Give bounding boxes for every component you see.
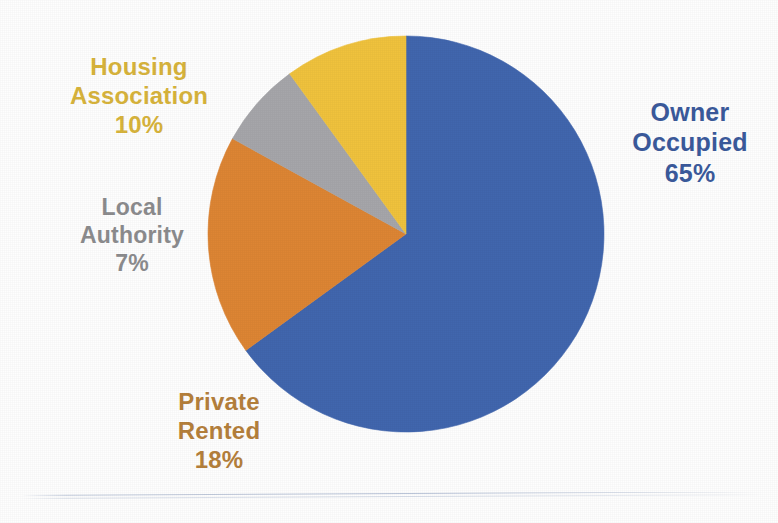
pie-label-private-rented-line1: Private	[143, 387, 295, 416]
pie-label-local-authority-value: 7%	[44, 250, 220, 278]
pie-label-housing-association: Housing Association 10%	[44, 52, 234, 139]
pie-chart-figure: Housing Association 10% Local Authority …	[0, 0, 778, 523]
pie-label-private-rented-value: 18%	[143, 445, 295, 474]
pie-label-owner-occupied-line2: Occupied	[610, 127, 770, 157]
pie-label-housing-association-value: 10%	[44, 110, 234, 139]
pie-label-local-authority-line1: Local	[44, 194, 220, 222]
pie-label-owner-occupied-value: 65%	[610, 158, 770, 188]
pie-label-local-authority-line2: Authority	[44, 222, 220, 250]
pie-label-owner-occupied: Owner Occupied 65%	[610, 97, 770, 188]
pie-label-owner-occupied-line1: Owner	[610, 97, 770, 127]
pie-label-housing-association-line1: Housing	[44, 52, 234, 81]
pie-label-private-rented: Private Rented 18%	[143, 387, 295, 474]
pie-slice-group	[208, 36, 604, 432]
pie-label-local-authority: Local Authority 7%	[44, 194, 220, 277]
pie-label-housing-association-line2: Association	[44, 81, 234, 110]
pie-label-private-rented-line2: Rented	[143, 416, 295, 445]
